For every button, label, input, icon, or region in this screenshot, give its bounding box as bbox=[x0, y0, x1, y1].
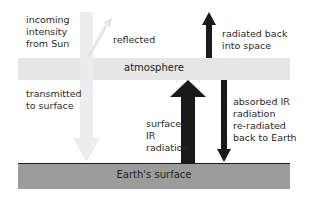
absorbed-ir-label: absorbed IR radiation re-radiated back t… bbox=[233, 96, 297, 144]
transmitted-label: transmitted to surface bbox=[26, 88, 82, 112]
incoming-sunlight-arrow-icon bbox=[73, 12, 100, 162]
reflected-label: reflected bbox=[113, 34, 155, 46]
re-radiated-arrow-icon bbox=[217, 80, 231, 162]
surface-ir-label: surface IR radiation bbox=[146, 118, 188, 154]
incoming-intensity-label: incoming intensity from Sun bbox=[26, 14, 70, 50]
radiated-to-space-arrow-icon bbox=[202, 12, 216, 58]
radiated-back-label: radiated back into space bbox=[222, 28, 287, 52]
